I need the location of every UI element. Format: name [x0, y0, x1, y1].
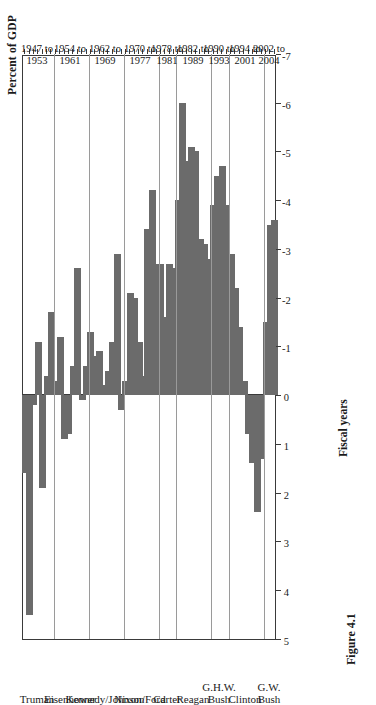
value-tick	[276, 639, 281, 640]
bar	[30, 395, 37, 405]
value-tick-label: 3	[284, 538, 289, 549]
fiscal-period-label: 2002 to2004	[254, 43, 286, 67]
president-label: G.W.Bush	[258, 681, 281, 705]
group-separator	[229, 54, 230, 639]
bar	[39, 395, 46, 488]
group-separator	[54, 54, 55, 639]
figure-caption: Figure 4.1	[344, 613, 359, 665]
bar	[65, 395, 72, 434]
bar	[57, 337, 64, 396]
value-tick	[276, 249, 281, 250]
category-axis-title: Fiscal years	[337, 399, 349, 457]
fiscal-period-label: 1954 to1961	[54, 43, 86, 67]
value-tick-label: 5	[284, 636, 289, 647]
value-tick-label: 0	[284, 392, 289, 403]
value-tick	[276, 493, 281, 494]
value-tick-label: -5	[282, 148, 291, 159]
bar	[74, 269, 81, 396]
value-tick-label: -2	[282, 294, 291, 305]
value-tick	[276, 395, 281, 396]
value-tick	[276, 103, 281, 104]
value-tick-label: -3	[282, 246, 291, 257]
value-tick	[276, 590, 281, 591]
value-tick-label: 1	[284, 441, 289, 452]
value-tick-label: -4	[282, 197, 291, 208]
fiscal-period-label: 1962 to1969	[89, 43, 121, 67]
plot-area	[22, 55, 276, 640]
value-tick	[276, 298, 281, 299]
bar	[26, 395, 33, 614]
fiscal-period-label: 1947 to1953	[21, 43, 53, 67]
group-separator	[264, 54, 265, 639]
bar	[241, 381, 248, 396]
value-tick-label: 4	[284, 587, 289, 598]
group-separator	[124, 54, 125, 639]
value-tick	[276, 542, 281, 543]
group-separator	[211, 54, 212, 639]
group-separator	[159, 54, 160, 639]
value-tick	[276, 200, 281, 201]
value-axis-title: Percent of GDP	[6, 15, 18, 95]
group-separator	[89, 54, 90, 639]
value-tick-label: -1	[282, 343, 291, 354]
group-separator	[176, 54, 177, 639]
value-tick-label: 2	[284, 489, 289, 500]
bar	[35, 342, 42, 396]
value-tick	[276, 152, 281, 153]
bar	[114, 254, 121, 395]
value-axis: 543210-1-2-3-4-5-6-7	[276, 55, 306, 640]
value-tick	[276, 444, 281, 445]
value-tick	[276, 347, 281, 348]
bar	[79, 395, 86, 400]
value-tick-label: -6	[282, 99, 291, 110]
